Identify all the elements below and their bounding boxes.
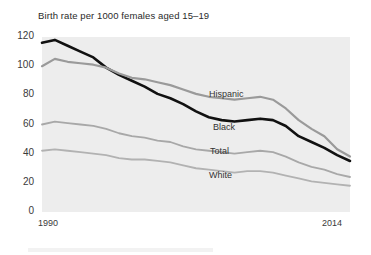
x-axis-tick-1990: 1990 — [38, 218, 58, 228]
series-label-hispanic: Hispanic — [209, 89, 244, 99]
series-label-white: White — [209, 170, 232, 180]
y-axis-tick-0: 0 — [6, 205, 34, 216]
series-label-black: Black — [213, 122, 235, 132]
y-axis-tick-20: 20 — [6, 176, 34, 187]
y-axis-tick-100: 100 — [6, 59, 34, 70]
x-axis-tick-2014: 2014 — [322, 218, 342, 228]
y-axis-tick-60: 60 — [6, 118, 34, 129]
y-axis-tick-80: 80 — [6, 88, 34, 99]
footer-strip — [28, 248, 213, 252]
line-chart-plot — [0, 0, 371, 255]
series-label-total: Total — [210, 146, 229, 156]
y-axis-tick-40: 40 — [6, 147, 34, 158]
y-axis-tick-120: 120 — [6, 30, 34, 41]
chart-figure: Birth rate per 1000 females aged 15–19 0… — [0, 0, 371, 255]
